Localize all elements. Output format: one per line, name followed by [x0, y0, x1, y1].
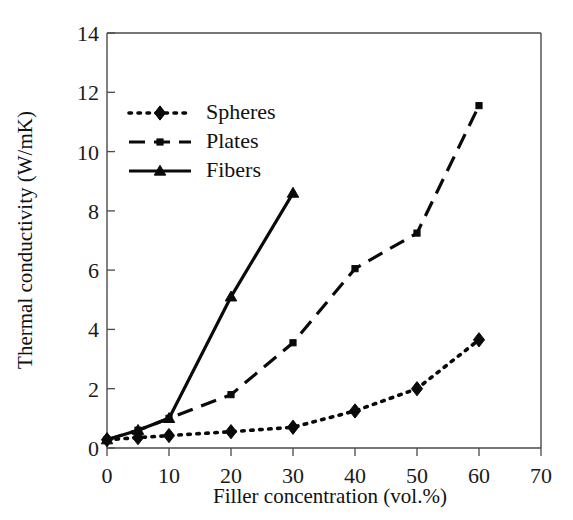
legend-label: Fibers [206, 157, 261, 182]
legend-entry-fibers: Fibers [129, 157, 261, 182]
data-point-plates-60 [476, 103, 482, 109]
data-point-spheres-20 [225, 425, 236, 439]
data-point-spheres-50 [411, 382, 422, 396]
x-tick-label-0: 0 [102, 463, 113, 488]
y-tick-label-4: 4 [88, 317, 99, 342]
x-axis-title: Filler concentration (vol.%) [213, 484, 447, 508]
series-line [107, 193, 293, 440]
legend-label: Spheres [206, 99, 276, 124]
y-axis-ticks: 0 2 4 6 8 10 12 14 [77, 21, 115, 461]
y-tick-label-12: 12 [77, 80, 99, 105]
thermal-conductivity-line-chart: 0 2 4 6 8 10 12 14 0 10 20 30 [0, 0, 573, 520]
series-plates [104, 103, 482, 443]
x-tick-label-10: 10 [158, 463, 180, 488]
y-axis-title: Thermal conductivity (W/mK) [13, 111, 37, 369]
chart-legend: SpheresPlatesFibers [129, 99, 276, 182]
legend-marker-sample [154, 106, 165, 120]
data-point-plates-20 [228, 392, 234, 398]
y-tick-label-0: 0 [88, 436, 99, 461]
data-point-spheres-40 [349, 404, 360, 418]
data-point-fibers-10 [163, 413, 174, 423]
data-point-spheres-10 [163, 428, 174, 442]
data-series-layer [101, 103, 484, 447]
data-point-plates-30 [290, 340, 296, 346]
y-tick-label-8: 8 [88, 199, 99, 224]
legend-entry-spheres: Spheres [129, 99, 276, 124]
series-line [107, 106, 479, 440]
data-point-plates-40 [352, 266, 358, 272]
data-point-plates-50 [414, 230, 420, 236]
legend-entry-plates: Plates [129, 128, 259, 153]
legend-marker-sample [157, 139, 163, 145]
chart-figure: 0 2 4 6 8 10 12 14 0 10 20 30 [0, 0, 573, 520]
data-point-fibers-30 [287, 187, 298, 197]
y-tick-label-6: 6 [88, 258, 99, 283]
data-point-spheres-30 [287, 420, 298, 434]
series-spheres [101, 333, 484, 447]
y-tick-label-14: 14 [77, 21, 99, 46]
x-tick-label-60: 60 [468, 463, 490, 488]
series-fibers [101, 187, 298, 444]
x-tick-label-70: 70 [530, 463, 552, 488]
plot-frame [107, 33, 541, 448]
x-axis-ticks: 0 10 20 30 40 50 60 70 [102, 448, 553, 488]
legend-label: Plates [206, 128, 259, 153]
y-tick-label-2: 2 [88, 377, 99, 402]
y-tick-label-10: 10 [77, 140, 99, 165]
